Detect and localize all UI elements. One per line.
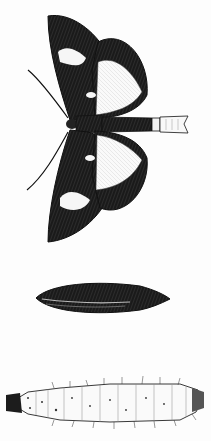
pupa — [36, 283, 170, 312]
moth-thorax — [76, 115, 102, 133]
moth-abdomen — [102, 117, 152, 132]
larva-head — [6, 393, 22, 413]
adult-moth — [27, 15, 188, 242]
illustration-svg — [0, 0, 211, 441]
illustration-plate — [0, 0, 211, 441]
larva — [6, 376, 204, 429]
moth-tail — [160, 116, 188, 133]
